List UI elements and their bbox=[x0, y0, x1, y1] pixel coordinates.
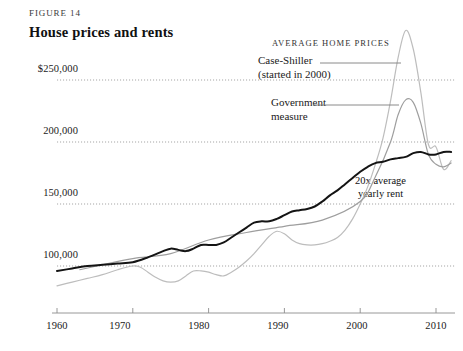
figure-container: FIGURE 14 House prices and rents AVERAGE… bbox=[0, 0, 463, 351]
legend-leader-lines bbox=[313, 63, 401, 105]
data-series bbox=[57, 30, 451, 286]
series-line-government-measure bbox=[80, 99, 451, 270]
axis-lines bbox=[52, 308, 455, 313]
grid-lines bbox=[57, 80, 455, 266]
chart-plot-area bbox=[0, 0, 463, 351]
